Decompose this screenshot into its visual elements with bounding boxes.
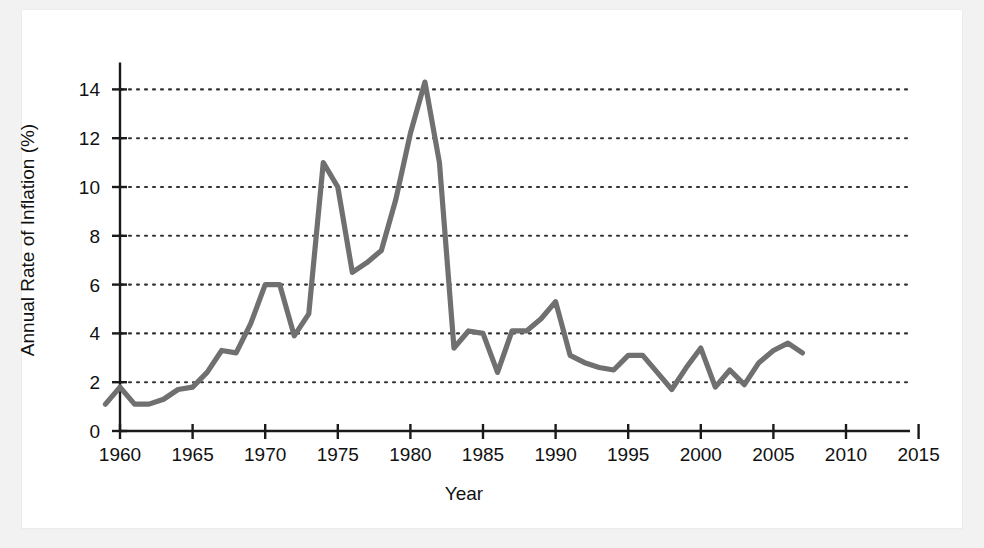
y-axis-tick-label: 2 — [89, 372, 100, 393]
grid-lines — [121, 89, 910, 382]
x-axis-tick-label: 1960 — [99, 444, 141, 465]
x-axis-tick-label: 2005 — [752, 444, 794, 465]
y-axis-tick-labels: 02468101214 — [79, 79, 101, 442]
x-axis-tick-label: 2000 — [680, 444, 722, 465]
figure-page: 02468101214 1960196519701975198019851990… — [0, 0, 984, 548]
y-axis-title: Annual Rate of Inflation (%) — [17, 124, 38, 356]
x-axis-tick-label: 2010 — [825, 444, 867, 465]
inflation-line-chart: 02468101214 1960196519701975198019851990… — [0, 0, 984, 548]
inflation-series-line — [105, 82, 802, 404]
x-axis-tick-label: 1995 — [607, 444, 649, 465]
y-axis-tick-label: 14 — [79, 79, 101, 100]
x-axis-tick-labels: 1960196519701975198019851990199520002005… — [99, 444, 940, 465]
y-axis-tick-label: 0 — [89, 421, 100, 442]
x-axis-tick-label: 1980 — [389, 444, 431, 465]
x-axis-title: Year — [445, 483, 484, 504]
y-axis-tick-label: 8 — [89, 226, 100, 247]
x-axis-tick-label: 1985 — [462, 444, 504, 465]
x-axis-tick-label: 1990 — [534, 444, 576, 465]
x-axis-tick-label: 1970 — [244, 444, 286, 465]
inflation-data-line — [105, 82, 802, 404]
y-axis-tick-label: 4 — [89, 323, 100, 344]
x-axis-tick-label: 2015 — [897, 444, 939, 465]
y-axis-tick-label: 6 — [89, 275, 100, 296]
x-axis-tick-label: 1975 — [317, 444, 359, 465]
x-axis-tick-label: 1965 — [171, 444, 213, 465]
y-axis-tick-label: 10 — [79, 177, 100, 198]
y-axis-tick-label: 12 — [79, 128, 100, 149]
